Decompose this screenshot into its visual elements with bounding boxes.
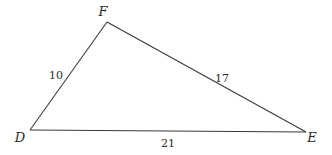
- vertex-label-f: F: [97, 4, 108, 19]
- side-df: [30, 22, 107, 130]
- side-label-fe: 17: [215, 72, 229, 85]
- side-label-de: 21: [161, 137, 175, 150]
- triangle-diagram: F D E 10 17 21: [0, 0, 332, 155]
- vertex-label-d: D: [14, 130, 26, 145]
- vertex-label-e: E: [306, 130, 317, 145]
- side-label-df: 10: [49, 69, 63, 82]
- side-de: [30, 130, 306, 132]
- side-fe: [107, 22, 306, 132]
